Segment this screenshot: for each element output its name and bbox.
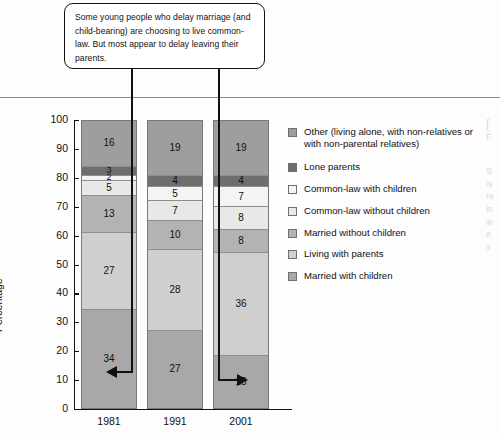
callout-leader-line-2001 <box>218 69 220 381</box>
bar-segment-value: 10 <box>169 230 180 240</box>
bar-segment[interactable]: 34 <box>82 310 136 408</box>
legend-swatch <box>288 163 297 172</box>
legend-swatch <box>288 272 297 281</box>
bar-segment-value: 8 <box>238 236 244 246</box>
bar-1991[interactable]: 19457102827 <box>147 120 203 409</box>
bar-segment-value: 5 <box>172 189 178 199</box>
legend-item[interactable]: Common-law without children <box>288 205 478 217</box>
bar-segment[interactable]: 5 <box>148 187 202 201</box>
bar-segment-value: 34 <box>103 354 114 364</box>
x-axis-line <box>74 409 292 410</box>
bar-2001[interactable]: 1947883618 <box>213 120 269 409</box>
callout-arrow-1981 <box>106 366 117 378</box>
bar-segment-value: 7 <box>172 206 178 216</box>
y-tick-label: 90 <box>22 142 68 154</box>
annotation-callout: Some young people who delay marriage (an… <box>64 3 265 69</box>
clipped-bracket: [ <box>486 118 500 131</box>
bar-segment[interactable]: 19 <box>214 121 268 176</box>
legend-swatch <box>288 229 297 238</box>
y-tick-label: 10 <box>22 373 68 385</box>
bar-segment-value: 16 <box>103 138 114 148</box>
bar-segment[interactable]: 27 <box>148 331 202 408</box>
stacked-bar-chart: Percentage 1009080706050403020100 163251… <box>0 104 300 434</box>
legend-label: Common-law with children <box>304 183 417 195</box>
clipped-right-column: [ FSisreinwes <box>486 118 500 253</box>
legend-item[interactable]: Other (living alone, with non-relatives … <box>288 126 478 151</box>
y-tick-label: 50 <box>22 258 68 270</box>
clipped-text-line: S <box>486 165 500 178</box>
y-tick-label: 100 <box>22 113 68 125</box>
bar-segment[interactable]: 5 <box>82 181 136 195</box>
y-tick <box>74 149 79 150</box>
clipped-text-lines: FSisreinwes <box>486 131 500 254</box>
bar-segment[interactable]: 7 <box>148 201 202 221</box>
bar-segment[interactable]: 8 <box>214 230 268 253</box>
bar-segment[interactable]: 36 <box>214 253 268 356</box>
bar-segment-value: 19 <box>169 143 180 153</box>
bar-segment-value: 4 <box>172 176 178 186</box>
bar-segment-value: 8 <box>238 213 244 223</box>
bar-segment[interactable]: 28 <box>148 250 202 330</box>
legend-label: Common-law without children <box>304 205 430 217</box>
bar-segment[interactable]: 27 <box>82 233 136 310</box>
bar-segment-value: 4 <box>238 176 244 186</box>
y-tick <box>74 409 79 410</box>
legend-swatch <box>288 250 297 259</box>
y-axis-label: Percentage <box>0 278 4 332</box>
legend-label: Married without children <box>304 227 406 239</box>
legend-label: Married with children <box>304 270 393 282</box>
y-tick-label: 40 <box>22 286 68 298</box>
callout-text: Some young people who delay marriage (an… <box>75 11 255 65</box>
y-tick-label: 30 <box>22 315 68 327</box>
chart-legend: Other (living alone, with non-relatives … <box>288 126 478 292</box>
bar-segment[interactable]: 19 <box>148 121 202 176</box>
bar-segment-value: 27 <box>169 364 180 374</box>
bar-segment-value: 36 <box>235 299 246 309</box>
clipped-text-line: F <box>486 131 500 144</box>
y-tick <box>74 351 79 352</box>
horizontal-divider <box>0 97 500 98</box>
bar-segment[interactable]: 4 <box>214 176 268 187</box>
y-tick-label: 60 <box>22 229 68 241</box>
bar-segment-value: 5 <box>106 183 112 193</box>
bar-segment-value: 19 <box>235 143 246 153</box>
legend-item[interactable]: Common-law with children <box>288 183 478 195</box>
legend-label: Other (living alone, with non-relatives … <box>304 126 478 151</box>
y-tick <box>74 322 79 323</box>
bar-segment-value: 28 <box>169 285 180 295</box>
page-canvas: Some young people who delay marriage (an… <box>0 0 500 438</box>
callout-leader-line-1981 <box>131 69 133 373</box>
legend-label: Lone parents <box>304 161 360 173</box>
y-tick-label: 20 <box>22 344 68 356</box>
legend-item[interactable]: Married with children <box>288 270 478 282</box>
clipped-text-line: e <box>486 228 500 241</box>
legend-item[interactable]: Living with parents <box>288 248 478 260</box>
y-tick <box>74 380 79 381</box>
clipped-text-line: w <box>486 216 500 229</box>
bar-segment[interactable]: 7 <box>214 187 268 207</box>
bar-segment-value: 27 <box>103 266 114 276</box>
y-tick-label: 0 <box>22 402 68 414</box>
legend-swatch <box>288 207 297 216</box>
y-tick <box>74 207 79 208</box>
bar-segment[interactable]: 4 <box>148 176 202 187</box>
legend-swatch <box>288 185 297 194</box>
clipped-text-line: s <box>486 241 500 254</box>
bar-segment[interactable]: 16 <box>82 121 136 167</box>
y-tick <box>74 120 79 121</box>
x-tick-label-2001: 2001 <box>201 415 281 427</box>
y-tick-label: 80 <box>22 171 68 183</box>
legend-item[interactable]: Married without children <box>288 227 478 239</box>
y-tick <box>74 236 79 237</box>
bar-segment[interactable]: 10 <box>148 221 202 250</box>
callout-arrow-2001 <box>237 374 248 386</box>
bar-segment-value: 13 <box>103 209 114 219</box>
clipped-text-line: in <box>486 203 500 216</box>
bar-segment[interactable]: 13 <box>82 196 136 233</box>
y-tick <box>74 265 79 266</box>
bar-segment[interactable]: 8 <box>214 207 268 230</box>
legend-item[interactable]: Lone parents <box>288 161 478 173</box>
y-tick-label: 70 <box>22 200 68 212</box>
legend-label: Living with parents <box>304 248 383 260</box>
legend-swatch <box>288 128 297 137</box>
